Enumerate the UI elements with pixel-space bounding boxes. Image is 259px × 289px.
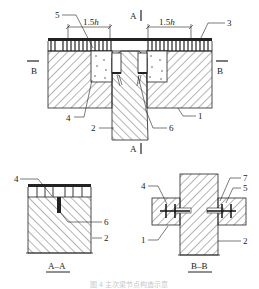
bb-secondary-beam <box>180 174 218 255</box>
aa-callout-4: 4 <box>14 174 19 184</box>
steel-plate-left <box>112 72 121 74</box>
aa-callout-6: 6 <box>104 217 109 227</box>
post-cast-block-left <box>91 51 112 82</box>
callout-2: 2 <box>91 123 96 133</box>
aa-callout-2: 2 <box>104 233 109 243</box>
bb-callout-4: 4 <box>141 181 146 191</box>
callout-3: 3 <box>227 18 232 28</box>
section-mark-a-top: A <box>130 11 137 21</box>
callout-5: 5 <box>55 10 60 20</box>
callout-1: 1 <box>198 111 203 121</box>
slab-top-plate <box>48 38 212 41</box>
dimension-left-label: 1.5h <box>83 17 99 27</box>
bb-callout-2: 2 <box>243 236 248 246</box>
aa-steel-plate <box>57 197 61 213</box>
section-mark-b-left: B <box>31 66 37 76</box>
bb-callout-5: 5 <box>243 183 248 193</box>
slab-ribs-right <box>148 41 208 51</box>
bb-callout-7: 7 <box>243 173 248 183</box>
section-a-a-view: 4 6 2 A–A <box>14 174 109 272</box>
section-b-b-view: 4 7 5 1 2 B–B <box>141 173 248 272</box>
section-mark-b-right: B <box>217 66 223 76</box>
figure-caption: 图 4 主次梁节点构造示意 <box>90 280 169 289</box>
notch-left <box>112 53 121 73</box>
slab-ribs-left <box>51 41 111 51</box>
main-elevation-view: 1.5h 1.5h A A B B 5 3 4 2 6 1 <box>27 10 232 154</box>
structural-detail-diagram: 1.5h 1.5h A A B B 5 3 4 2 6 1 <box>0 0 259 289</box>
aa-slab-plate <box>28 184 91 187</box>
callout-6: 6 <box>169 123 174 133</box>
bb-callout-1: 1 <box>141 235 146 245</box>
section-a-a-title: A–A <box>48 261 66 271</box>
dimension-right-label: 1.5h <box>159 17 175 27</box>
steel-plate-right <box>138 72 147 74</box>
section-mark-a-bottom: A <box>130 144 137 154</box>
notch-right <box>138 53 147 73</box>
section-b-b-title: B–B <box>191 261 208 271</box>
callout-4: 4 <box>66 113 71 123</box>
